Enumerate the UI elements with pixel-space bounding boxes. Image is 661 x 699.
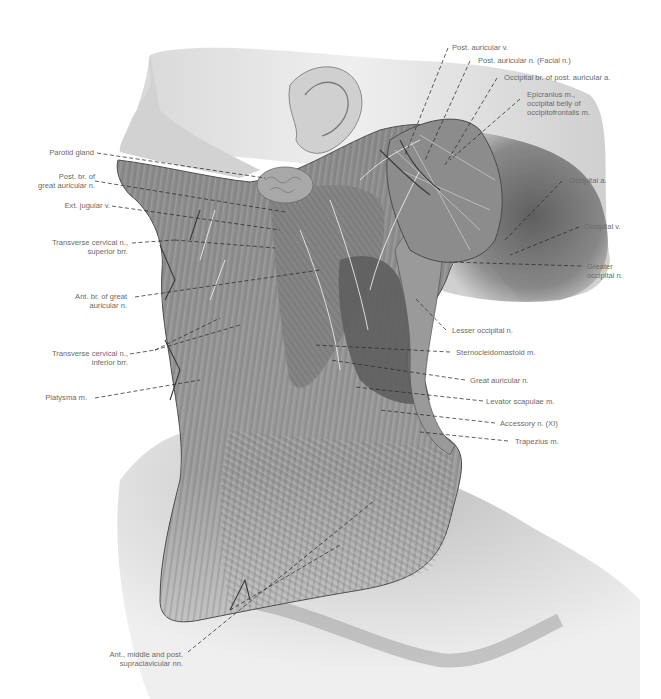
label-accessory-n: Accessory n. (XI): [500, 419, 558, 428]
label-occipital-v: Occipital v.: [584, 222, 621, 231]
label-epicranius: Epicranius m., occipital belly of occipi…: [527, 90, 590, 118]
anatomy-figure: Parotid gland Post. br. of great auricul…: [0, 0, 661, 699]
label-platysma: Platysma m.: [45, 393, 87, 402]
parotid-gland: [257, 167, 313, 203]
label-trapezius: Trapezius m.: [515, 437, 559, 446]
label-transverse-cervical-superior: Transverse cervical n., superior brr.: [52, 238, 128, 256]
label-parotid-gland: Parotid gland: [49, 148, 94, 157]
label-supraclavicular-nn: Ant., middle and post. supraclavicular n…: [110, 650, 183, 668]
label-ext-jugular-v: Ext. jugular v.: [65, 201, 110, 210]
label-occipital-a: Occipital a.: [569, 176, 607, 185]
label-sternocleidomastoid: Sternocleidomastoid m.: [456, 348, 535, 357]
label-post-auricular-v: Post. auricular v.: [452, 43, 508, 52]
label-greater-occipital-n: Greater occipital n.: [587, 262, 623, 280]
label-lesser-occipital-n: Lesser occipital n.: [452, 326, 513, 335]
label-great-auricular-n: Great auricular n.: [470, 376, 529, 385]
label-post-br-great-auricular: Post. br. of great auricular n.: [38, 172, 95, 190]
label-transverse-cervical-inferior: Transverse cervical n., inferior brr.: [52, 349, 128, 367]
label-ant-br-great-auricular: Ant. br. of great auricular n.: [75, 292, 127, 310]
label-occipital-br-post-auricular-a: Occipital br. of post. auricular a.: [504, 73, 610, 82]
label-levator-scapulae: Levator scapulae m.: [486, 397, 554, 406]
label-post-auricular-n: Post. auricular n. (Facial n.): [478, 56, 571, 65]
